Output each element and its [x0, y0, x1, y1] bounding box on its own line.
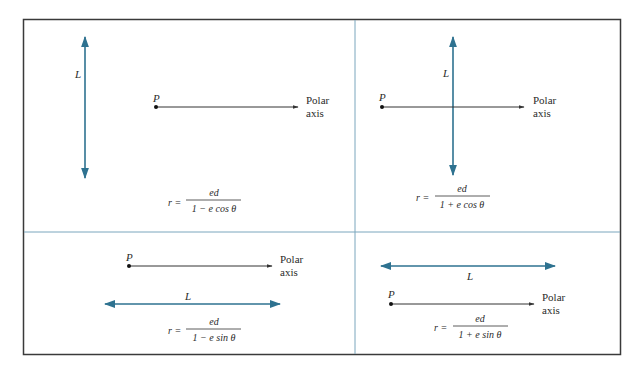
axis-label-line1: Polar: [306, 94, 330, 106]
conic-directrix-diagram: L P Polar axis r = ed 1 − e cos θ L P Po…: [0, 0, 639, 373]
pole-label: P: [125, 251, 133, 263]
pole-label: P: [378, 91, 386, 103]
pole-label: P: [387, 288, 395, 300]
equation-denominator: 1 + e sin θ: [459, 329, 502, 340]
axis-label-line1: Polar: [542, 291, 566, 303]
directrix-label: L: [74, 68, 81, 80]
axis-label-line2: axis: [280, 266, 298, 278]
pole-point: [127, 264, 131, 268]
pole-point: [389, 302, 393, 306]
axis-label-line1: Polar: [280, 253, 304, 265]
equation-lhs: r =: [434, 322, 447, 333]
directrix-label: L: [442, 67, 449, 79]
axis-label-line2: axis: [542, 304, 560, 316]
equation-denominator: 1 − e sin θ: [193, 332, 236, 343]
equation-lhs: r =: [168, 197, 181, 208]
directrix-label: L: [466, 270, 473, 282]
equation-denominator: 1 + e cos θ: [440, 199, 485, 210]
equation-lhs: r =: [168, 325, 181, 336]
axis-label-line2: axis: [533, 107, 551, 119]
axis-label-line2: axis: [306, 107, 324, 119]
equation-lhs: r =: [416, 192, 429, 203]
equation-denominator: 1 − e cos θ: [192, 203, 237, 214]
equation-numerator: ed: [475, 313, 485, 324]
equation-numerator: ed: [209, 316, 219, 327]
directrix-label: L: [184, 290, 191, 302]
equation-numerator: ed: [457, 183, 467, 194]
axis-label-line1: Polar: [533, 94, 557, 106]
pole-point: [154, 105, 158, 109]
pole-label: P: [152, 92, 160, 104]
equation-numerator: ed: [209, 187, 219, 198]
pole-point: [380, 105, 384, 109]
